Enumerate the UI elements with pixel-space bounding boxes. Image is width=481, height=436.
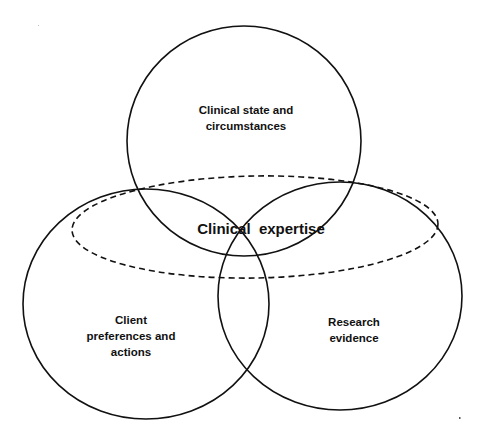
client-preferences-label-line1: Client (115, 314, 147, 326)
scan-speck (459, 417, 461, 419)
venn-diagram: Clinical state and circumstances Client … (0, 0, 481, 436)
research-evidence-label-line2: evidence (329, 332, 378, 344)
client-preferences-label-line2: preferences and (87, 330, 176, 342)
client-preferences-label-line3: actions (111, 346, 151, 358)
clinical-state-label-line2: circumstances (206, 120, 287, 132)
research-evidence-circle (218, 182, 462, 410)
scan-speck (38, 25, 39, 26)
research-evidence-label-line1: Research (328, 316, 380, 328)
clinical-state-label-line1: Clinical state and (199, 104, 294, 116)
clinical-expertise-label: Clinical expertise (197, 220, 325, 237)
